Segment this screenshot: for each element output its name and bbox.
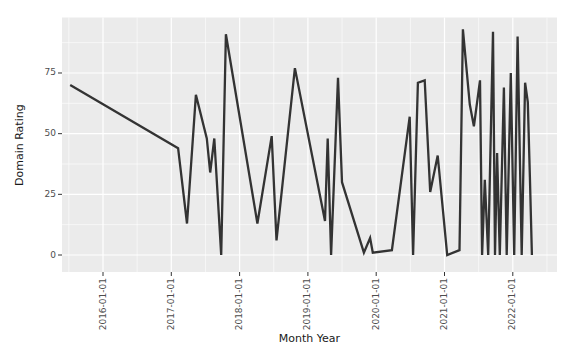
y-tick-label: 75 [32, 68, 56, 77]
x-axis-title: Month Year [62, 332, 557, 345]
y-tick-label: 25 [32, 190, 56, 199]
plot-area [0, 0, 563, 354]
x-tick-label: 2017-01-01 [166, 278, 177, 330]
y-axis-title: Domain Rating [13, 0, 26, 290]
x-tick-label: 2019-01-01 [302, 278, 313, 330]
chart: Domain Rating Month Year 02550752016-01-… [0, 0, 563, 354]
x-tick-label: 2022-01-01 [507, 278, 518, 330]
x-tick-label: 2020-01-01 [371, 278, 382, 330]
y-tick-label: 50 [32, 129, 56, 138]
x-tick-label: 2018-01-01 [234, 278, 245, 330]
x-tick-label: 2021-01-01 [439, 278, 450, 330]
y-tick-label: 0 [32, 251, 56, 260]
x-tick-label: 2016-01-01 [98, 278, 109, 330]
